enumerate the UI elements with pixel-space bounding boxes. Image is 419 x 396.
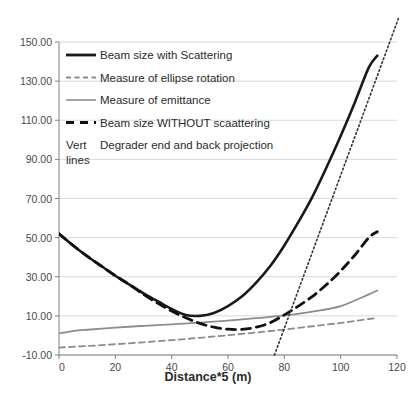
chart-container: -10.0010.0030.0050.0070.0090.00110.00130… (0, 0, 419, 396)
legend-item[interactable]: VertlinesDegrader end and back projectio… (66, 139, 273, 166)
y-tick-label: 50.00 (26, 232, 52, 244)
legend-item[interactable]: Measure of emittance (66, 94, 211, 106)
y-tick-label: 150.00 (20, 36, 52, 48)
y-tick-label: 130.00 (20, 75, 52, 87)
legend-item[interactable]: Beam size with Scattering (66, 49, 232, 61)
legend-label: Measure of emittance (100, 94, 211, 106)
series-line-1 (59, 318, 377, 348)
legend-label: Beam size with Scattering (100, 49, 232, 61)
x-tick-label: 120 (388, 361, 406, 373)
line-chart: -10.0010.0030.0050.0070.0090.00110.00130… (0, 0, 419, 396)
legend: Beam size with ScatteringMeasure of elli… (66, 49, 273, 166)
legend-label: Beam size WITHOUT scaattering (100, 117, 270, 129)
y-tick-label: 90.00 (26, 153, 52, 165)
y-tick-label: -10.00 (22, 349, 52, 361)
legend-prefix: Vert (66, 139, 87, 151)
axes (55, 42, 397, 359)
legend-prefix-line2: lines (66, 154, 90, 166)
legend-item[interactable]: Measure of ellipse rotation (66, 72, 235, 84)
legend-label: Measure of ellipse rotation (100, 72, 235, 84)
gridlines (59, 42, 397, 355)
x-tick-label: 80 (278, 361, 290, 373)
y-tick-label: 30.00 (26, 271, 52, 283)
y-tick-label: 10.00 (26, 310, 52, 322)
x-tick-label: 20 (109, 361, 121, 373)
degrader-projection-line (274, 19, 398, 355)
x-tick-label: 0 (59, 361, 65, 373)
y-tick-label: 70.00 (26, 193, 52, 205)
x-tick-label: 100 (332, 361, 350, 373)
x-axis-title: Distance*5 (m) (165, 370, 252, 384)
legend-item[interactable]: Beam size WITHOUT scaattering (66, 117, 270, 129)
y-tick-label: 110.00 (21, 114, 52, 126)
series-line-3 (59, 232, 377, 330)
legend-label: Degrader end and back projection (100, 139, 273, 151)
vertical-projection-lines (274, 19, 398, 355)
